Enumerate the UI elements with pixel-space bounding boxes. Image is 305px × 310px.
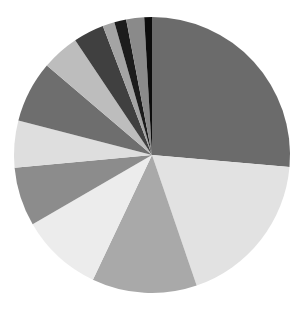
pie-slice-1 [152,17,290,167]
pie-chart [0,0,305,310]
pie-chart-svg [0,0,305,310]
